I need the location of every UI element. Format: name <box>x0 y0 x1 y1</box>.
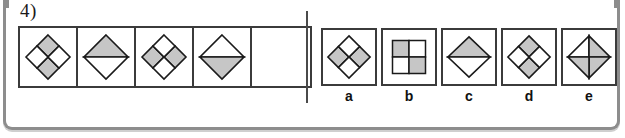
answer-option-e[interactable]: e <box>561 28 617 104</box>
answer-option-b-label: b <box>405 88 414 104</box>
sequence-cell-1 <box>20 28 78 86</box>
sequence-row <box>18 26 312 88</box>
diamond-quadrants-left-right-icon <box>326 34 372 80</box>
answer-option-c-label: c <box>465 88 473 104</box>
answer-option-c-box[interactable] <box>441 28 497 86</box>
sequence-cell-4 <box>194 28 252 86</box>
diamond-cross-triangles-icon <box>566 34 612 80</box>
frame-edge-left <box>6 0 9 8</box>
answer-option-a[interactable]: a <box>321 28 377 104</box>
answer-option-e-box[interactable] <box>561 28 617 86</box>
answer-option-a-label: a <box>345 88 353 104</box>
answer-option-b-box[interactable] <box>381 28 437 86</box>
diamond-half-bottom-icon <box>198 33 246 81</box>
answer-option-b[interactable]: b <box>381 28 437 104</box>
sequence-cell-2 <box>78 28 136 86</box>
answer-option-a-box[interactable] <box>321 28 377 86</box>
answer-option-e-label: e <box>585 88 593 104</box>
diamond-half-top-icon <box>82 33 130 81</box>
diamond-quadrants-top-bottom-icon <box>24 33 72 81</box>
square-quadrants-diagonal-icon <box>391 39 427 75</box>
answer-option-c[interactable]: c <box>441 28 497 104</box>
frame-edge-right <box>614 0 617 8</box>
sequence-cell-3 <box>136 28 194 86</box>
diamond-half-top-icon <box>446 34 492 80</box>
answer-options-row: a b <box>321 28 617 104</box>
answer-option-d-label: d <box>525 88 534 104</box>
section-divider <box>306 11 308 103</box>
sequence-cell-blank <box>252 28 310 86</box>
answer-option-d[interactable]: d <box>501 28 557 104</box>
answer-option-d-box[interactable] <box>501 28 557 86</box>
diamond-quadrants-left-right-icon <box>140 33 188 81</box>
question-card: 4) <box>3 0 620 130</box>
diamond-quadrants-top-bottom-icon <box>506 34 552 80</box>
question-number: 4) <box>20 0 37 24</box>
